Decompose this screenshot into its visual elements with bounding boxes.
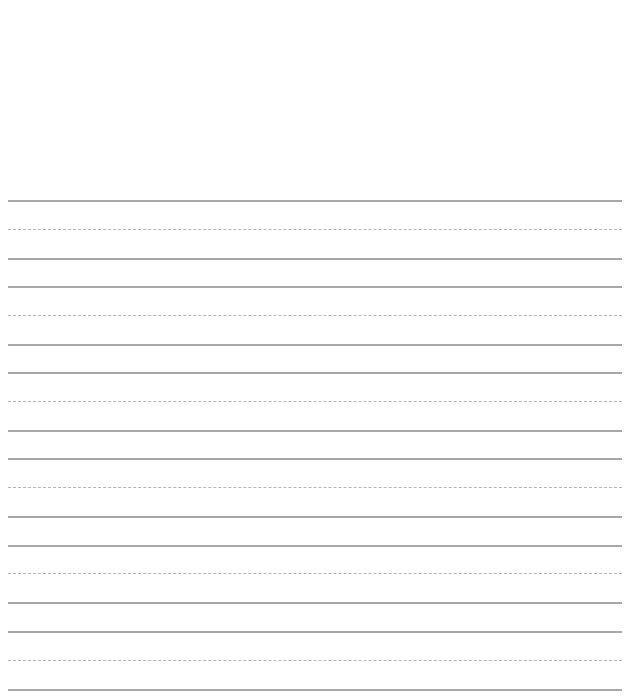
ruling-line-mid [8,229,622,230]
ruling-line-mid [8,660,622,661]
ruling-line-mid [8,487,622,488]
ruling-line-bottom [8,344,622,346]
practice-sheet [0,0,638,700]
ruling-line-bottom [8,602,622,604]
ruling-line-mid [8,401,622,402]
ruling-line-mid [8,315,622,316]
ruling-line-bottom [8,430,622,432]
ruling-line-top [8,200,622,202]
ruling-line-top [8,545,622,547]
ruling-line-mid [8,573,622,574]
ruling-line-bottom [8,689,622,691]
ruling-line-top [8,286,622,288]
ruling-line-top [8,458,622,460]
ruling-line-bottom [8,258,622,260]
ruling-line-top [8,372,622,374]
ruling-line-bottom [8,516,622,518]
ruling-line-top [8,631,622,633]
